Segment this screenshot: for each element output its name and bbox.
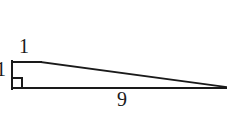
hypotenuse-edge [40, 62, 226, 87]
base-label: 9 [117, 89, 127, 109]
triangle-drawing [0, 0, 227, 121]
geometry-figure: 1 1 9 [0, 0, 227, 121]
right-angle-icon [12, 78, 22, 88]
vertical-leg-label: 1 [0, 59, 6, 79]
top-edge-label: 1 [19, 36, 29, 56]
